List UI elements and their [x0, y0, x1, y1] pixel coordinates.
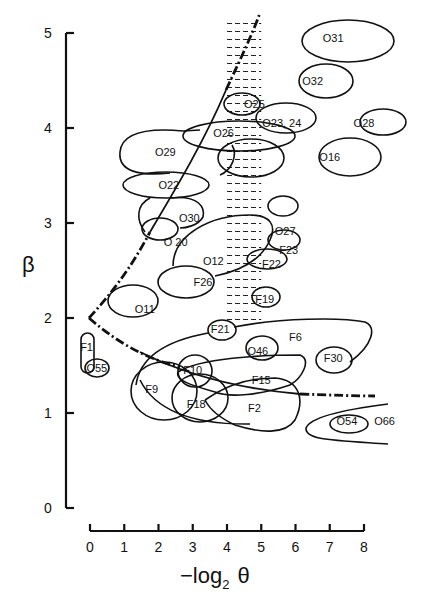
x-tick-label: 3: [189, 539, 197, 555]
region-label: F30: [324, 352, 343, 364]
region-label: F6: [289, 331, 302, 343]
region-label: F22: [262, 258, 281, 270]
y-tick-label: 4: [44, 120, 52, 136]
x-tick-label: 6: [292, 539, 300, 555]
region-label: O16: [319, 151, 340, 163]
region-label: F1: [80, 341, 93, 353]
y-axis: [66, 33, 74, 508]
region-label: F10: [183, 364, 202, 376]
y-tick-label: 2: [44, 310, 52, 326]
x-tick-label: 2: [155, 539, 163, 555]
region-label: O25: [244, 98, 265, 110]
region-label: O11: [135, 303, 155, 315]
x-tick-label: 4: [223, 539, 231, 555]
region-label: O55: [86, 362, 107, 374]
region-label: O12: [203, 255, 224, 267]
region-label: O32: [302, 75, 323, 87]
y-tick-label: 1: [44, 405, 52, 421]
region-label: O31: [323, 32, 344, 44]
x-tick-label: 5: [257, 539, 265, 555]
region-label: F23: [279, 244, 298, 256]
boundary-curve: [89, 13, 375, 396]
region-label: O26: [213, 127, 234, 139]
region-label: O22: [158, 179, 179, 191]
y-tick-label: 5: [44, 25, 52, 41]
y-tick-label: 0: [44, 500, 52, 516]
region-label: O29: [155, 146, 176, 158]
x-tick-label: 1: [120, 539, 128, 555]
region-label: O28: [354, 117, 375, 129]
y-tick-label: 3: [44, 215, 52, 231]
x-tick-label: 0: [86, 539, 94, 555]
x-tick-label: 7: [326, 539, 334, 555]
region-label: F26: [194, 276, 213, 288]
region-label: F15: [252, 374, 271, 386]
chart-canvas: 012345 012345678 β −log2θ: [0, 0, 428, 609]
region-label: O54: [336, 415, 357, 427]
y-tick-labels: 012345: [44, 25, 52, 516]
region-label: F18: [187, 398, 206, 410]
region-label: O66: [374, 415, 395, 427]
region-label: O23, 24: [262, 117, 301, 129]
region-label: O46: [247, 345, 268, 357]
region-label: F19: [255, 293, 274, 305]
region-label: O30: [179, 212, 200, 224]
region-label: O27: [275, 225, 296, 237]
region-label: F21: [211, 323, 230, 335]
x-tick-label: 8: [360, 539, 368, 555]
region-label: O 20: [164, 236, 188, 248]
region-label: F2: [248, 402, 261, 414]
hatched-band: [227, 24, 261, 320]
region-label: F9: [145, 383, 158, 395]
y-axis-title: β: [22, 252, 35, 277]
x-axis-title: −log2θ: [180, 563, 250, 592]
x-tick-labels: 012345678: [86, 539, 368, 555]
